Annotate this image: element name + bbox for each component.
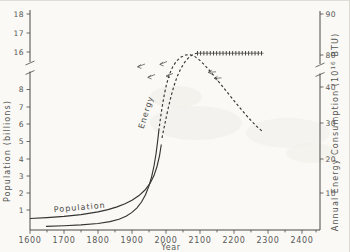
left-tick-16: 16 [14,48,24,57]
scan-smudge [150,86,202,108]
left-tick-2: 2 [19,189,24,198]
right-axis-break-icon [316,63,325,77]
curve-arrow-marker [138,64,146,69]
left-axis-title: Population (billions) [3,100,12,202]
right-axis-unit-prefix: (10 [331,70,340,90]
left-axis-ticks [27,14,31,210]
scan-smudges [150,86,338,163]
right-axis-unit-suffix: BTU) [331,33,340,60]
left-axis-tick-labels: 1 2 3 4 5 6 7 8 16 17 18 [14,10,24,215]
scan-smudge [150,106,242,140]
x-tick-2300: 2300 [257,236,280,245]
right-axis-unit-exponent: 16 [330,60,336,69]
x-tick-2200: 2200 [223,236,246,245]
left-tick-3: 3 [19,172,24,181]
x-tick-1600: 1600 [19,236,42,245]
right-tick-90: 90 [326,10,336,19]
left-tick-17: 17 [14,29,24,38]
left-tick-7: 7 [19,103,24,112]
left-tick-5: 5 [19,137,24,146]
curve-arrow-marker [148,75,155,80]
curve-arrow-marker [214,76,221,80]
curves [30,53,264,226]
right-axis-title: Annual Energy Consumption (1016 BTU) [330,33,340,231]
x-axis-title: Year [160,243,180,252]
left-axis-break-icon [26,61,35,75]
curve-arrow-marker [160,62,167,67]
x-tick-1700: 1700 [53,236,76,245]
left-tick-6: 6 [19,120,24,129]
right-axis-title-text: Annual Energy Consumption [331,90,340,231]
left-tick-8: 8 [19,85,24,94]
left-tick-18: 18 [14,10,24,19]
x-tick-2100: 2100 [189,236,212,245]
left-tick-4: 4 [19,155,24,164]
scanned-chart-figure: 1 2 3 4 5 6 7 8 16 17 18 10 20 30 40 80 … [0,0,350,252]
x-tick-1800: 1800 [87,236,110,245]
curve-arrow-marker [166,74,173,78]
x-tick-1900: 1900 [121,236,144,245]
right-axis-ticks [320,14,324,193]
left-tick-1: 1 [19,206,24,215]
x-axis-ticks [30,230,316,234]
figure-canvas: 1 2 3 4 5 6 7 8 16 17 18 10 20 30 40 80 … [0,1,349,252]
x-tick-2400: 2400 [291,236,314,245]
